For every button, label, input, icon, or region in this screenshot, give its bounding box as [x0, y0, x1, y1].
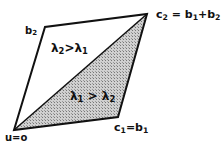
label-origin: u=o: [5, 133, 27, 143]
label-c2: c2 = b1+b2: [156, 9, 220, 21]
label-upper-region: λ2>λ1: [51, 42, 88, 55]
label-b2: b2: [25, 26, 37, 37]
label-c1: c1=b1: [114, 122, 148, 134]
label-lower-region: λ1 > λ2: [70, 90, 115, 103]
diagram-canvas: [0, 0, 224, 147]
parallelogram-diagram: b2 c2 = b1+b2 λ2>λ1 λ1 > λ2 c1=b1 u=o: [0, 0, 224, 147]
